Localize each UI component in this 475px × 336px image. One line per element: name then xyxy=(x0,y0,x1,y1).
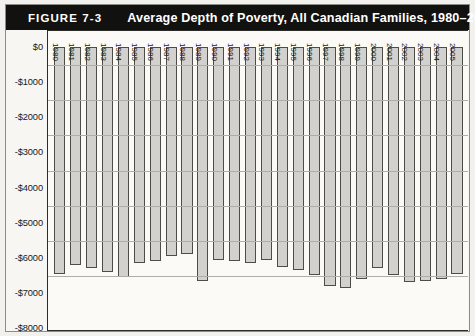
bar-1995: 1995 xyxy=(293,47,304,270)
y-axis: $0-$1000-$2000-$3000-$4000-$5000-$6000-$… xyxy=(6,30,47,331)
y-axis-tick-label: -$8000 xyxy=(15,323,43,333)
bar-label-year: 1980 xyxy=(51,43,60,61)
bar-2000: 2000 xyxy=(372,47,383,268)
plot-region: 1980198119821983198419851986198719881989… xyxy=(47,30,468,331)
bar-label-year: 1989 xyxy=(194,43,203,61)
bar-1998: 1998 xyxy=(340,47,351,288)
bar-label-year: 2002 xyxy=(400,43,409,61)
bar-label-year: 1997 xyxy=(321,43,330,61)
bar-label-year: 1991 xyxy=(226,43,235,61)
bar-label-year: 1984 xyxy=(114,43,123,61)
bar-label-year: 1995 xyxy=(289,43,298,61)
bar-1999: 1999 xyxy=(356,47,367,279)
bar-1987: 1987 xyxy=(166,47,177,256)
figure-number: FIGURE 7-3 xyxy=(28,12,102,24)
y-axis-tick-label: -$2000 xyxy=(15,112,43,122)
gridline xyxy=(48,241,468,242)
bar-label-year: 1998 xyxy=(337,43,346,61)
bar-label-year: 1988 xyxy=(178,43,187,61)
figure-title: Average Depth of Poverty, All Canadian F… xyxy=(127,11,475,25)
y-axis-tick-label: -$7000 xyxy=(15,288,43,298)
y-axis-tick-label: -$1000 xyxy=(15,77,43,87)
bar-1981: 1981 xyxy=(70,47,81,265)
bar-label-year: 1987 xyxy=(162,43,171,61)
bar-1997: 1997 xyxy=(324,47,335,286)
y-axis-tick-label: -$6000 xyxy=(15,253,43,263)
gridline xyxy=(48,135,468,136)
gridline xyxy=(48,276,468,277)
gridline xyxy=(48,171,468,172)
gridline xyxy=(48,65,468,66)
bar-1986: 1986 xyxy=(150,47,161,261)
bar-label-year: 1986 xyxy=(146,43,155,61)
bar-label-year: 1992 xyxy=(242,43,251,61)
bar-2005: 2005 xyxy=(451,47,462,274)
bar-label-year: 1981 xyxy=(67,43,76,61)
bar-label-year: 2001 xyxy=(385,43,394,61)
bar-1984: 1984 xyxy=(118,47,129,277)
bar-label-year: 2005 xyxy=(448,43,457,61)
figure-container: FIGURE 7-3 Average Depth of Poverty, All… xyxy=(5,4,470,332)
bar-label-year: 1993 xyxy=(257,43,266,61)
bar-1992: 1992 xyxy=(245,47,256,263)
y-axis-tick-label: -$4000 xyxy=(15,183,43,193)
bar-1980: 1980 xyxy=(54,47,65,274)
bar-1988: 1988 xyxy=(181,47,192,254)
bar-1982: 1982 xyxy=(86,47,97,268)
bar-1983: 1983 xyxy=(102,47,113,272)
bar-label-year: 2004 xyxy=(432,43,441,61)
bar-label-year: 1985 xyxy=(130,43,139,61)
bar-1990: 1990 xyxy=(213,47,224,260)
bar-label-year: 1983 xyxy=(99,43,108,61)
bar-label-year: 1999 xyxy=(353,43,362,61)
bar-1991: 1991 xyxy=(229,47,240,261)
bar-label-year: 2000 xyxy=(369,43,378,61)
bar-1994: 1994 xyxy=(277,47,288,267)
bar-1993: 1993 xyxy=(261,47,272,260)
y-axis-tick-label: -$3000 xyxy=(15,147,43,157)
chart-area: $0-$1000-$2000-$3000-$4000-$5000-$6000-$… xyxy=(6,30,469,331)
bar-2002: 2002 xyxy=(404,47,415,282)
bar-series: 1980198119821983198419851986198719881989… xyxy=(48,30,468,330)
y-axis-tick-label: $0 xyxy=(33,42,43,52)
figure-header: FIGURE 7-3 Average Depth of Poverty, All… xyxy=(6,5,469,30)
gridline xyxy=(48,206,468,207)
gridline xyxy=(48,100,468,101)
bar-label-year: 1996 xyxy=(305,43,314,61)
bar-2003: 2003 xyxy=(420,47,431,281)
bar-label-year: 2003 xyxy=(416,43,425,61)
bar-1989: 1989 xyxy=(197,47,208,281)
bar-label-year: 1982 xyxy=(83,43,92,61)
bar-label-year: 1990 xyxy=(210,43,219,61)
bar-label-year: 1994 xyxy=(273,43,282,61)
y-axis-tick-label: -$5000 xyxy=(15,218,43,228)
bar-1985: 1985 xyxy=(134,47,145,263)
bar-2004: 2004 xyxy=(436,47,447,279)
